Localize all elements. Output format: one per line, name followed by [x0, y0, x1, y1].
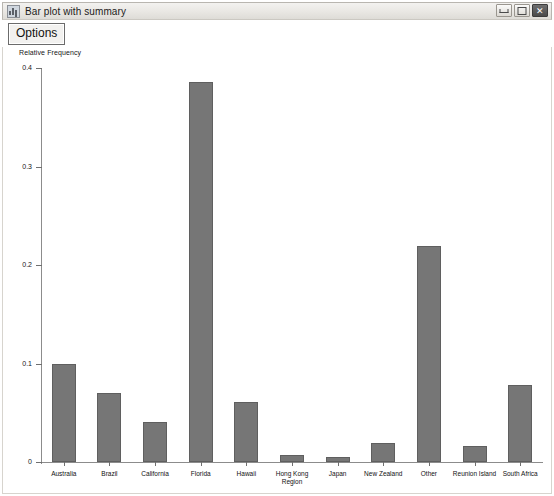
y-tick: [36, 462, 42, 463]
x-tick: [338, 462, 339, 466]
x-tick: [155, 462, 156, 466]
bar[interactable]: [463, 446, 487, 462]
x-tick-label: South Africa: [490, 470, 550, 478]
bar[interactable]: [417, 246, 441, 462]
bar[interactable]: [371, 443, 395, 462]
x-tick: [520, 462, 521, 466]
bar[interactable]: [234, 402, 258, 462]
bar[interactable]: [52, 364, 76, 462]
title-bar: Bar plot with summary ✕: [2, 2, 552, 20]
y-tick: [36, 265, 42, 266]
y-tick-label: 0.3: [6, 163, 32, 170]
bar[interactable]: [143, 422, 167, 462]
x-tick: [64, 462, 65, 466]
x-tick: [109, 462, 110, 466]
y-tick-label: 0.1: [6, 360, 32, 367]
x-tick: [475, 462, 476, 466]
bar[interactable]: [508, 385, 532, 462]
close-glyph: ✕: [536, 6, 545, 15]
y-axis-label: Relative Frequency: [19, 49, 81, 56]
x-tick: [429, 462, 430, 466]
x-tick: [383, 462, 384, 466]
bar[interactable]: [280, 455, 304, 462]
x-tick: [201, 462, 202, 466]
y-tick: [36, 68, 42, 69]
window-controls: ✕: [496, 4, 548, 17]
y-axis-line: [41, 68, 42, 464]
x-tick: [246, 462, 247, 466]
bar-chart-plot: Relative Frequency 00.10.20.30.4 Austral…: [2, 47, 552, 494]
x-tick: [292, 462, 293, 466]
y-tick-label: 0.2: [6, 261, 32, 268]
options-button[interactable]: Options: [8, 23, 65, 45]
y-tick: [36, 167, 42, 168]
application-window: Bar plot with summary ✕ Options Relative…: [0, 0, 554, 496]
window-title: Bar plot with summary: [25, 6, 126, 17]
bar[interactable]: [97, 393, 121, 462]
minimize-icon[interactable]: [496, 4, 512, 17]
y-tick-label: 0: [6, 458, 32, 465]
y-tick-label: 0.4: [6, 64, 32, 71]
bar[interactable]: [189, 82, 213, 462]
y-tick: [36, 364, 42, 365]
chart-window-icon: [7, 5, 20, 18]
maximize-icon[interactable]: [514, 4, 530, 17]
toolbar: Options: [2, 21, 552, 46]
close-icon[interactable]: ✕: [532, 4, 548, 17]
